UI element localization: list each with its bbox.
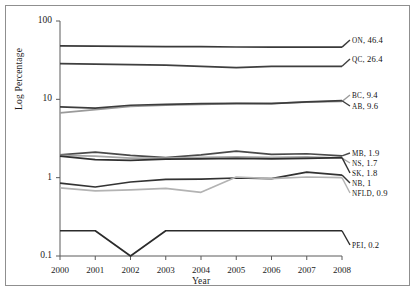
x-tick-label: 2002 — [114, 265, 148, 275]
series-line-on — [60, 46, 342, 47]
x-axis-title: Year — [192, 276, 210, 286]
y-tick-label: 10 — [22, 93, 52, 103]
series-label-value: , 1.8 — [362, 168, 378, 178]
series-label-province: NB — [352, 180, 363, 188]
series-label-province: PEI — [352, 242, 364, 250]
series-label-mb: MB, 1.9 — [352, 148, 379, 158]
x-tick-label: 2005 — [219, 265, 253, 275]
y-tick-label: 0.1 — [22, 250, 52, 260]
x-tick-label: 2004 — [184, 265, 218, 275]
series-label-province: MB — [352, 150, 364, 158]
series-line-ab — [60, 101, 342, 109]
series-line-nb — [60, 172, 342, 187]
series-label-province: NFLD — [352, 190, 372, 198]
series-label-value: , 0.2 — [364, 240, 380, 250]
series-label-on: ON, 46.4 — [352, 35, 383, 45]
x-axis-ticks — [60, 256, 342, 260]
series-label-qc: QC, 26.4 — [352, 54, 383, 64]
series-label-pei: PEI, 0.2 — [352, 240, 379, 250]
leader-line-on — [342, 40, 350, 47]
x-tick-label: 2000 — [43, 265, 77, 275]
y-axis-ticks — [56, 21, 60, 256]
x-tick-label: 2001 — [78, 265, 112, 275]
series-label-value: , 9.6 — [363, 101, 379, 111]
series-label-sk: SK, 1.8 — [352, 168, 377, 178]
x-tick-label: 2003 — [149, 265, 183, 275]
series-label-province: NS — [352, 160, 362, 168]
x-tick-label: 2006 — [255, 265, 289, 275]
series-label-ns: NS, 1.7 — [352, 158, 377, 168]
series-leader-lines — [342, 40, 350, 245]
x-tick-label: 2008 — [325, 265, 359, 275]
leader-line-mb — [342, 153, 350, 156]
leader-line-ab — [342, 101, 350, 106]
leader-line-bc — [342, 95, 350, 101]
series-label-province: QC — [352, 56, 363, 64]
x-tick-label: 2007 — [290, 265, 324, 275]
y-tick-label: 1 — [22, 172, 52, 182]
series-label-value: , 1.7 — [362, 158, 378, 168]
y-tick-label: 100 — [22, 15, 52, 25]
leader-line-pei — [342, 231, 350, 245]
series-label-nfld: NFLD, 0.9 — [352, 188, 388, 198]
series-label-value: , 1.9 — [364, 148, 380, 158]
series-label-province: ON — [352, 37, 363, 45]
leader-line-qc — [342, 59, 350, 66]
series-label-province: BC — [352, 92, 362, 100]
series-line-pei — [60, 231, 342, 256]
series-label-value: , 46.4 — [363, 35, 383, 45]
series-label-value: , 1 — [363, 178, 372, 188]
figure-container: Log Percentage Year 1001010.1 2000200120… — [0, 0, 415, 299]
series-label-ab: AB, 9.6 — [352, 101, 378, 111]
series-label-province: AB — [352, 103, 363, 111]
series-label-province: SK — [352, 170, 362, 178]
series-lines — [60, 46, 342, 256]
series-label-value: , 26.4 — [363, 54, 383, 64]
series-label-value: , 0.9 — [372, 188, 388, 198]
series-line-qc — [60, 64, 342, 68]
series-label-value: , 9.4 — [362, 90, 378, 100]
series-label-bc: BC, 9.4 — [352, 90, 378, 100]
series-label-nb: NB, 1 — [352, 178, 372, 188]
